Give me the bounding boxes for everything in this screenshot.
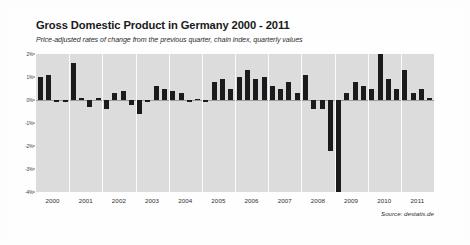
y-axis-tick-mark bbox=[33, 100, 35, 101]
chart-bar bbox=[112, 93, 117, 100]
page-subtitle: Price-adjusted rates of change from the … bbox=[36, 36, 303, 44]
chart-page: Gross Domestic Product in Germany 2000 -… bbox=[0, 0, 470, 245]
y-axis-tick-mark bbox=[33, 146, 35, 147]
x-axis-year-label: 2000 bbox=[45, 197, 59, 204]
chart-bar bbox=[378, 54, 383, 100]
x-axis-year-label: 2007 bbox=[278, 197, 292, 204]
x-axis-year-label: 2005 bbox=[211, 197, 225, 204]
x-axis-year-label: 2008 bbox=[311, 197, 325, 204]
chart-bar bbox=[170, 91, 175, 100]
chart-bar bbox=[179, 93, 184, 100]
chart-bar bbox=[71, 63, 76, 100]
chart-bar bbox=[245, 70, 250, 100]
source-attribution: Source: destatis.de bbox=[381, 210, 434, 217]
x-axis-year-label: 2011 bbox=[411, 197, 425, 204]
y-axis-tick-mark bbox=[33, 123, 35, 124]
chart-bar bbox=[79, 98, 84, 100]
chart-bar bbox=[427, 98, 432, 100]
chart-bar bbox=[46, 75, 51, 100]
x-axis-year-label: 2009 bbox=[344, 197, 358, 204]
chart-bar bbox=[162, 89, 167, 101]
y-axis-tick-mark bbox=[33, 77, 35, 78]
year-separator-gridline bbox=[368, 54, 369, 192]
chart-bar bbox=[253, 79, 258, 100]
chart-bar bbox=[63, 100, 68, 102]
chart-bar bbox=[386, 79, 391, 100]
chart-bar bbox=[336, 100, 341, 192]
chart-bar bbox=[328, 100, 333, 151]
chart-bar bbox=[137, 100, 142, 114]
chart-bar bbox=[96, 98, 101, 100]
chart-bar bbox=[154, 86, 159, 100]
year-separator-gridline bbox=[202, 54, 203, 192]
chart-bar bbox=[87, 100, 92, 107]
y-axis-tick-mark bbox=[33, 54, 35, 55]
chart-bar bbox=[145, 100, 150, 102]
chart-bar bbox=[419, 89, 424, 101]
x-axis-year-label: 2006 bbox=[244, 197, 258, 204]
chart-bar bbox=[203, 100, 208, 102]
chart-bar bbox=[220, 79, 225, 100]
chart-bar bbox=[320, 100, 325, 109]
chart-bar bbox=[54, 100, 59, 102]
chart-bar bbox=[361, 86, 366, 100]
chart-bar bbox=[311, 100, 316, 109]
chart-bar bbox=[344, 93, 349, 100]
chart-bar bbox=[394, 89, 399, 101]
chart-bar bbox=[104, 100, 109, 109]
x-axis-year-label: 2010 bbox=[377, 197, 391, 204]
y-axis-tick-label: -1% bbox=[25, 121, 33, 126]
chart-bar bbox=[129, 100, 134, 105]
page-title: Gross Domestic Product in Germany 2000 -… bbox=[36, 19, 290, 31]
chart-bar bbox=[237, 77, 242, 100]
year-separator-gridline bbox=[268, 54, 269, 192]
chart-plot-wrapper: 2%1%0%-1%-2%-3%-4%2000200120022003200420… bbox=[36, 54, 434, 192]
chart-bar bbox=[402, 70, 407, 100]
x-axis-year-label: 2002 bbox=[112, 197, 126, 204]
y-axis-tick-mark bbox=[33, 169, 35, 170]
chart-bar bbox=[262, 77, 267, 100]
chart-bar bbox=[38, 77, 43, 100]
year-separator-gridline bbox=[169, 54, 170, 192]
chart-bar bbox=[353, 82, 358, 100]
year-separator-gridline bbox=[301, 54, 302, 192]
chart-bar bbox=[187, 100, 192, 102]
chart-bar bbox=[195, 99, 200, 100]
y-axis-tick-label: -4% bbox=[25, 190, 33, 195]
y-axis-tick-label: -2% bbox=[25, 144, 33, 149]
year-separator-gridline bbox=[235, 54, 236, 192]
x-axis-year-label: 2001 bbox=[79, 197, 93, 204]
chart-bar bbox=[303, 75, 308, 100]
chart-bar bbox=[212, 82, 217, 100]
chart-plot-area bbox=[36, 54, 434, 192]
chart-bar bbox=[369, 89, 374, 101]
chart-bar bbox=[121, 91, 126, 100]
chart-bar bbox=[295, 93, 300, 100]
chart-bar bbox=[286, 82, 291, 100]
y-axis-tick-label: -3% bbox=[25, 167, 33, 172]
chart-bar bbox=[411, 93, 416, 100]
x-axis-year-label: 2004 bbox=[178, 197, 192, 204]
year-separator-gridline bbox=[136, 54, 137, 192]
chart-bar bbox=[278, 89, 283, 101]
year-separator-gridline bbox=[102, 54, 103, 192]
y-axis-tick-mark bbox=[33, 192, 35, 193]
chart-bar bbox=[228, 89, 233, 101]
x-axis-year-label: 2003 bbox=[145, 197, 159, 204]
chart-bar bbox=[270, 86, 275, 100]
